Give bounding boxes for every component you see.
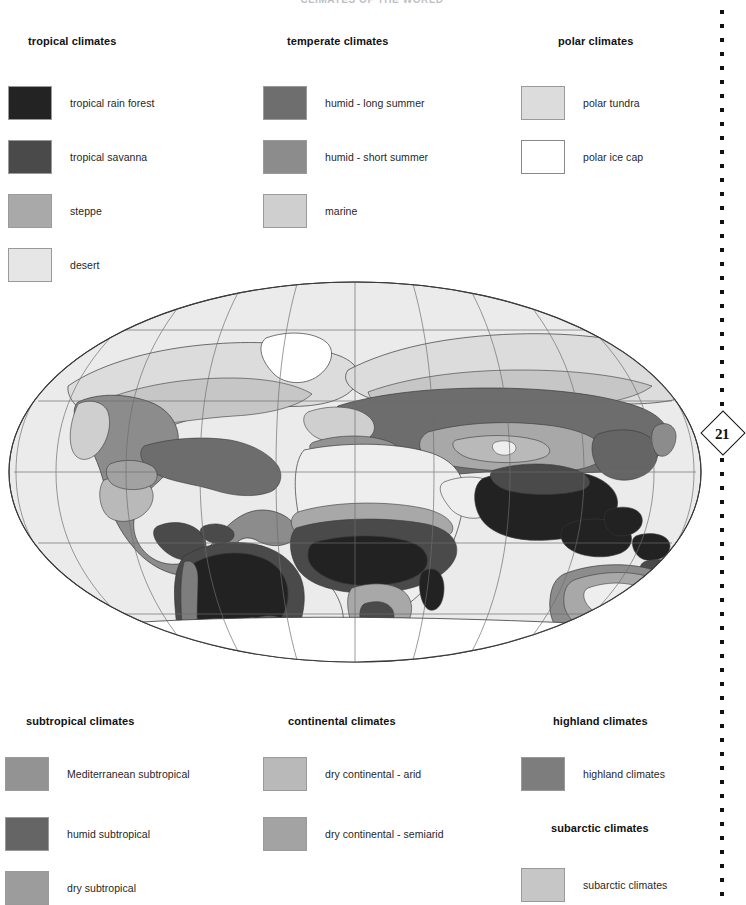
legend-item[interactable]: humid - long summer — [263, 86, 425, 120]
legend-group-heading: subtropical climates — [26, 715, 134, 727]
legend-color-swatch — [521, 140, 565, 174]
legend-color-swatch — [521, 86, 565, 120]
legend-item-label: polar tundra — [583, 97, 640, 109]
legend-item-label: humid subtropical — [67, 828, 150, 840]
legend-color-swatch — [263, 817, 307, 851]
legend-item-label: highland climates — [583, 768, 665, 780]
legend-group-heading: continental climates — [288, 715, 396, 727]
page-title: CLIMATES OF THE WORLD — [0, 0, 744, 5]
legend-color-swatch — [263, 86, 307, 120]
legend-item-label: dry continental - arid — [325, 768, 421, 780]
legend-color-swatch — [5, 757, 49, 791]
legend-item-label: marine — [325, 205, 357, 217]
legend-item[interactable]: highland climates — [521, 757, 665, 791]
legend-color-swatch — [521, 868, 565, 902]
legend-color-swatch — [8, 194, 52, 228]
legend-item[interactable]: humid - short summer — [263, 140, 428, 174]
legend-item[interactable]: steppe — [8, 194, 102, 228]
legend-item-label: dry subtropical — [67, 882, 136, 894]
page-number-text: 21 — [703, 408, 741, 460]
legend-item[interactable]: polar tundra — [521, 86, 640, 120]
page-number-marker: 21 — [703, 408, 741, 460]
legend-item-label: polar ice cap — [583, 151, 643, 163]
legend-item-label: tropical savanna — [70, 151, 147, 163]
legend-group-heading: temperate climates — [287, 35, 388, 47]
legend-item[interactable]: humid subtropical — [5, 817, 150, 851]
legend-group-heading: tropical climates — [28, 35, 117, 47]
legend-item-label: humid - long summer — [325, 97, 425, 109]
legend-item-label: dry continental - semiarid — [325, 828, 444, 840]
legend-item[interactable]: tropical rain forest — [8, 86, 154, 120]
legend-item[interactable]: dry subtropical — [5, 871, 136, 905]
world-climate-map — [8, 274, 702, 670]
legend-item[interactable]: marine — [263, 194, 357, 228]
legend-item[interactable]: subarctic climates — [521, 868, 667, 902]
legend-item-label: subarctic climates — [583, 879, 667, 891]
legend-color-swatch — [263, 194, 307, 228]
legend-color-swatch — [8, 140, 52, 174]
legend-color-swatch — [8, 86, 52, 120]
legend-item-label: tropical rain forest — [70, 97, 154, 109]
legend-item[interactable]: Mediterranean subtropical — [5, 757, 190, 791]
legend-item-label: desert — [70, 259, 99, 271]
legend-item[interactable]: polar ice cap — [521, 140, 643, 174]
legend-color-swatch — [263, 140, 307, 174]
legend-group-heading: polar climates — [558, 35, 633, 47]
legend-color-swatch — [263, 757, 307, 791]
legend-item-label: humid - short summer — [325, 151, 428, 163]
legend-group-heading: subarctic climates — [551, 822, 649, 834]
legend-group-heading: highland climates — [553, 715, 648, 727]
legend-color-swatch — [5, 871, 49, 905]
legend-item-label: Mediterranean subtropical — [67, 768, 190, 780]
legend-color-swatch — [5, 817, 49, 851]
legend-item[interactable]: tropical savanna — [8, 140, 147, 174]
legend-item[interactable]: dry continental - arid — [263, 757, 421, 791]
legend-item-label: steppe — [70, 205, 102, 217]
legend-item[interactable]: dry continental - semiarid — [263, 817, 444, 851]
legend-color-swatch — [521, 757, 565, 791]
